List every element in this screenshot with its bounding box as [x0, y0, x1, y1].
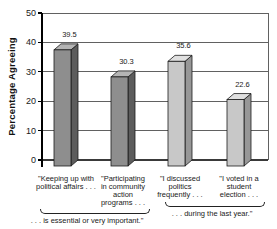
- bar-side-face-2: [185, 55, 192, 166]
- y-tick-label-50: 50: [0, 8, 36, 19]
- group-bracket-1: [165, 202, 265, 207]
- y-tick-label-0: 0: [0, 155, 36, 166]
- y-tick-label-40: 40: [0, 37, 36, 48]
- bar-value-label-2: 35.6: [164, 41, 204, 50]
- y-tick-label-30: 30: [0, 67, 36, 78]
- bar-front-face-1: [111, 77, 128, 166]
- y-tick-label-20: 20: [0, 96, 36, 107]
- category-label-2: "I discussed politics frequently . . .: [149, 175, 211, 199]
- bar-front-face-0: [54, 50, 71, 166]
- bar-value-label-0: 39.5: [50, 30, 90, 39]
- category-label-1: "Participating in community action progr…: [92, 175, 154, 207]
- bar-side-face-1: [128, 71, 135, 166]
- bar-side-face-0: [71, 44, 78, 166]
- y-tick-label-10: 10: [0, 126, 36, 137]
- y-axis-title: Percentage Agreeing: [6, 7, 19, 167]
- category-label-0: "Keeping up with political affairs . . .: [35, 175, 97, 191]
- category-label-3: "I voted in a student election . . .: [208, 175, 270, 199]
- group-label-1: . . . during the last year.": [137, 209, 277, 218]
- bar-value-label-3: 22.6: [223, 80, 263, 89]
- bar-value-label-1: 30.3: [107, 57, 147, 66]
- bar-side-face-3: [244, 94, 251, 166]
- group-bracket-0: [40, 209, 150, 214]
- bar-front-face-3: [227, 100, 244, 166]
- figure-3d-bar-chart: Percentage Agreeing 0102030405039.530.33…: [0, 0, 277, 229]
- bar-front-face-2: [168, 61, 185, 166]
